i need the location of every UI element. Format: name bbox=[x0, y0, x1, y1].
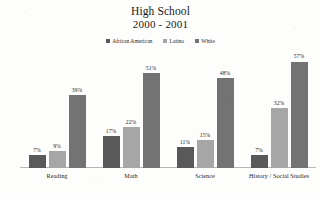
bar-african-american bbox=[103, 136, 120, 168]
bar-white bbox=[291, 62, 308, 169]
chart-page: High School 2000 - 2001 African American… bbox=[0, 0, 321, 199]
bar-latino bbox=[271, 108, 288, 168]
bar-value-label: 7% bbox=[255, 148, 262, 154]
legend-item-african-american: African American bbox=[106, 38, 152, 44]
bar-value-label: 7% bbox=[33, 148, 40, 154]
bar-group-reading: 7% 9% 39% bbox=[20, 52, 94, 168]
bar-white bbox=[143, 73, 160, 168]
bar-groups: 7% 9% 39% 17% 22% bbox=[20, 52, 316, 168]
page-title: High School bbox=[0, 5, 321, 18]
legend-item-latino: Latino bbox=[163, 38, 184, 44]
bar-group-history-social-studies: 7% 32% 57% bbox=[242, 52, 316, 168]
legend-swatch-icon bbox=[195, 39, 199, 43]
bar-value-label: 9% bbox=[53, 144, 60, 150]
legend-swatch-icon bbox=[106, 39, 110, 43]
x-axis-label-math: Math bbox=[94, 172, 168, 179]
bar-latino bbox=[49, 151, 66, 168]
bar-value-label: 39% bbox=[72, 88, 82, 94]
bar-african-american bbox=[177, 147, 194, 168]
x-axis-label-science: Science bbox=[168, 172, 242, 179]
x-axis-labels: Reading Math Science History / Social St… bbox=[20, 172, 316, 179]
legend-swatch-icon bbox=[163, 39, 167, 43]
bar-group-math: 17% 22% 51% bbox=[94, 52, 168, 168]
bar-value-label: 57% bbox=[294, 54, 304, 60]
bar-wrap: 15% bbox=[197, 52, 214, 168]
bar-wrap: 22% bbox=[123, 52, 140, 168]
bar-latino bbox=[123, 127, 140, 168]
chart-subtitle: 2000 - 2001 bbox=[0, 18, 321, 30]
bar-value-label: 11% bbox=[180, 140, 190, 146]
bar-white bbox=[69, 95, 86, 168]
bar-wrap: 57% bbox=[291, 52, 308, 168]
bar-latino bbox=[197, 140, 214, 168]
chart-legend: African American Latino White bbox=[0, 38, 321, 44]
bar-wrap: 39% bbox=[69, 52, 86, 168]
legend-label: African American bbox=[112, 38, 152, 44]
bar-value-label: 51% bbox=[146, 66, 156, 72]
bar-wrap: 32% bbox=[271, 52, 288, 168]
bar-value-label: 22% bbox=[126, 120, 136, 126]
bar-value-label: 48% bbox=[220, 71, 230, 77]
legend-item-white: White bbox=[195, 38, 215, 44]
bar-wrap: 48% bbox=[217, 52, 234, 168]
bar-white bbox=[217, 78, 234, 168]
bar-wrap: 7% bbox=[29, 52, 46, 168]
bar-wrap: 11% bbox=[177, 52, 194, 168]
bar-wrap: 51% bbox=[143, 52, 160, 168]
chart-title-block: High School 2000 - 2001 bbox=[0, 5, 321, 30]
plot-area: 7% 9% 39% 17% 22% bbox=[20, 52, 316, 168]
bar-group-science: 11% 15% 48% bbox=[168, 52, 242, 168]
bar-african-american bbox=[29, 155, 46, 168]
legend-label: Latino bbox=[170, 38, 185, 44]
x-axis-label-reading: Reading bbox=[20, 172, 94, 179]
bar-value-label: 15% bbox=[200, 133, 210, 139]
bar-wrap: 7% bbox=[251, 52, 268, 168]
bar-wrap: 9% bbox=[49, 52, 66, 168]
legend-label: White bbox=[201, 38, 215, 44]
x-axis-label-history-social-studies: History / Social Studies bbox=[242, 172, 316, 179]
bar-wrap: 17% bbox=[103, 52, 120, 168]
bar-value-label: 32% bbox=[274, 101, 284, 107]
bar-african-american bbox=[251, 155, 268, 168]
bar-value-label: 17% bbox=[106, 129, 116, 135]
